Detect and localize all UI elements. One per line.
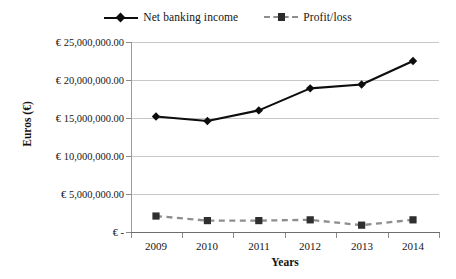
line-chart: Net banking income Profit/loss € 25,000,… xyxy=(0,0,456,279)
data-point xyxy=(306,84,314,92)
series-layer xyxy=(0,0,456,279)
series-line-net-banking-income xyxy=(156,61,413,121)
data-point xyxy=(357,80,365,88)
data-point xyxy=(203,117,211,125)
data-point xyxy=(409,216,416,223)
data-point xyxy=(255,217,262,224)
data-point xyxy=(255,106,263,114)
data-point xyxy=(409,57,417,65)
data-point xyxy=(204,217,211,224)
data-point xyxy=(307,216,314,223)
data-point xyxy=(358,222,365,229)
data-point xyxy=(152,112,160,120)
data-point xyxy=(152,212,159,219)
series-line-profit-loss xyxy=(156,216,413,225)
series-markers-net-banking-income xyxy=(152,57,417,125)
